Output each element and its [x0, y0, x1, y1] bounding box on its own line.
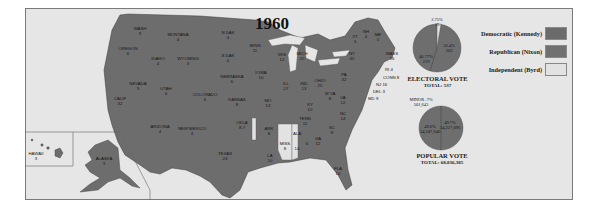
svg-text:219: 219	[423, 59, 431, 64]
svg-text:14: 14	[341, 116, 346, 121]
svg-text:15: 15	[435, 22, 440, 27]
svg-text:12: 12	[316, 141, 321, 146]
legend-democratic-label: Democratic (Kennedy)	[462, 30, 542, 37]
legend-independent-swatch	[545, 63, 567, 76]
svg-text:27: 27	[284, 86, 289, 91]
svg-text:MD 9: MD 9	[368, 96, 379, 101]
svg-text:24: 24	[223, 156, 228, 161]
svg-text:CONN 8: CONN 8	[383, 75, 400, 80]
svg-text:25: 25	[318, 83, 323, 88]
svg-text:RI 4: RI 4	[385, 67, 393, 72]
svg-text:32: 32	[342, 77, 347, 82]
legend-republican-label: Republican (Nixon)	[462, 48, 542, 55]
svg-text:13: 13	[302, 86, 307, 91]
popular-vote-total: TOTAL: 68,836,385	[402, 160, 482, 165]
legend-independent-label: Independent (Byrd)	[462, 66, 542, 73]
svg-text:45: 45	[350, 56, 355, 61]
hawaii-shape	[55, 148, 63, 158]
svg-text:11: 11	[253, 48, 258, 53]
svg-text:501,643: 501,643	[414, 102, 429, 108]
svg-text:32: 32	[118, 101, 123, 106]
svg-text:20: 20	[300, 56, 305, 61]
svg-text:10: 10	[336, 171, 341, 176]
svg-text:3: 3	[35, 156, 38, 161]
svg-text:11: 11	[303, 121, 308, 126]
svg-text:DEL 3: DEL 3	[373, 89, 385, 94]
svg-text:16: 16	[390, 56, 395, 61]
state-okla-byrd	[252, 118, 256, 140]
state-ala-byrd	[292, 124, 298, 160]
svg-text:10: 10	[308, 107, 313, 112]
svg-text:12: 12	[341, 100, 346, 105]
svg-text:10: 10	[259, 75, 264, 80]
contiguous-us-shape	[104, 14, 395, 198]
svg-text:14: 14	[295, 146, 300, 151]
svg-text:303: 303	[446, 48, 454, 53]
map-title: 1960	[255, 14, 289, 34]
electoral-vote-total: TOTAL: 537	[400, 83, 475, 88]
electoral-vote-heading: ELECTORAL VOTE	[400, 75, 475, 82]
svg-text:13: 13	[266, 103, 271, 108]
svg-text:10: 10	[268, 158, 273, 163]
svg-text:NJ 16: NJ 16	[376, 82, 388, 87]
svg-text:8-7: 8-7	[239, 125, 246, 130]
popular-vote-heading: POPULAR VOTE	[402, 152, 482, 159]
legend-democratic-swatch	[545, 27, 567, 40]
legend-republican-swatch	[545, 45, 567, 58]
svg-text:ALA: ALA	[293, 131, 301, 136]
svg-text:12: 12	[280, 57, 285, 62]
